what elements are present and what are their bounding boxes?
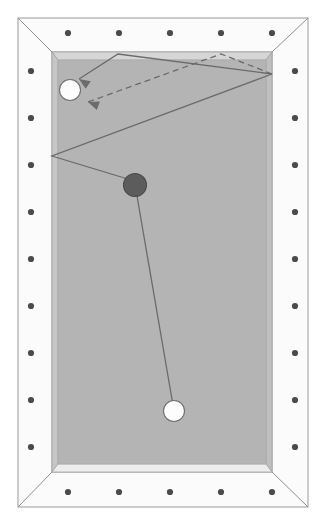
sight-dot-right-9 xyxy=(292,444,298,450)
cushion-left xyxy=(52,52,58,472)
sight-dot-right-1 xyxy=(292,68,298,74)
sight-dot-right-8 xyxy=(292,397,298,403)
sight-dot-left-3 xyxy=(28,162,34,168)
sight-dot-right-6 xyxy=(292,303,298,309)
sight-dot-right-4 xyxy=(292,209,298,215)
sight-dot-left-1 xyxy=(28,68,34,74)
cue-ball-white-lower xyxy=(164,401,185,422)
billiards-table-figure xyxy=(0,0,326,525)
sight-dot-left-9 xyxy=(28,444,34,450)
sight-dot-top-3 xyxy=(167,30,173,36)
playing-surface-cloth xyxy=(58,60,266,464)
sight-dot-top-2 xyxy=(116,30,122,36)
sight-dot-bottom-3 xyxy=(167,489,173,495)
sight-dot-top-4 xyxy=(218,30,224,36)
sight-dot-right-5 xyxy=(292,256,298,262)
target-ball-white-upper xyxy=(60,80,81,101)
sight-dot-right-3 xyxy=(292,162,298,168)
sight-dot-left-7 xyxy=(28,350,34,356)
sight-dot-right-2 xyxy=(292,115,298,121)
billiards-diagram-stage xyxy=(0,0,326,525)
object-ball-dark xyxy=(124,174,147,197)
sight-dot-bottom-4 xyxy=(218,489,224,495)
cushion-bottom xyxy=(52,464,272,472)
sight-dot-left-8 xyxy=(28,397,34,403)
sight-dot-left-6 xyxy=(28,303,34,309)
sight-dot-right-7 xyxy=(292,350,298,356)
cushion-right xyxy=(266,52,272,472)
sight-dot-top-5 xyxy=(269,30,275,36)
sight-dot-bottom-2 xyxy=(116,489,122,495)
sight-dot-top-1 xyxy=(65,30,71,36)
sight-dot-left-2 xyxy=(28,115,34,121)
sight-dot-left-5 xyxy=(28,256,34,262)
sight-dot-bottom-1 xyxy=(65,489,71,495)
cushion-top xyxy=(52,52,272,60)
sight-dot-bottom-5 xyxy=(269,489,275,495)
sight-dot-left-4 xyxy=(28,209,34,215)
